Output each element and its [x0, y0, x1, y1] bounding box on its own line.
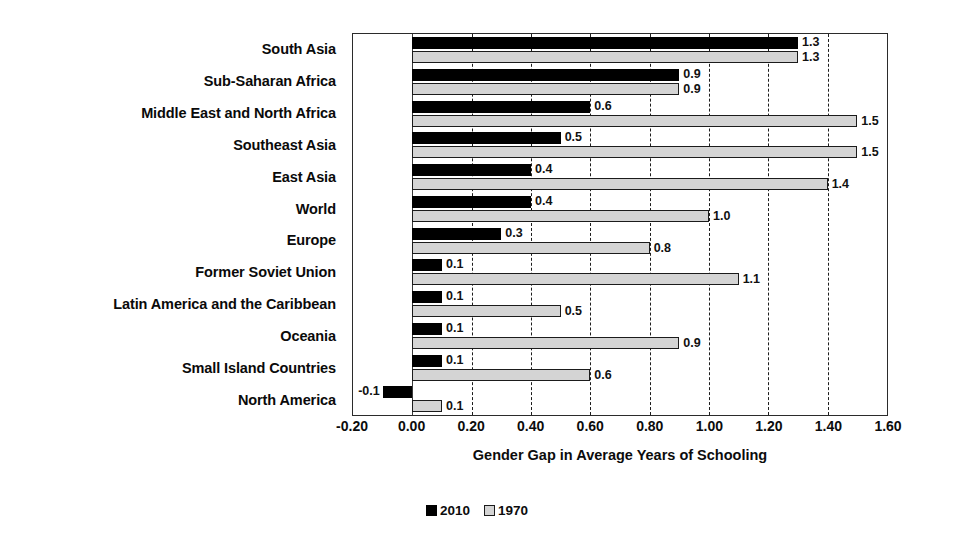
category-label: East Asia [0, 161, 342, 193]
category-label: Small Island Countries [0, 352, 342, 384]
bar-value-label: 0.1 [446, 290, 463, 302]
bar-row: 0.10.6 [353, 352, 887, 384]
light-square-icon [484, 505, 495, 516]
bar-value-label: 0.4 [535, 163, 552, 175]
category-axis-labels: South AsiaSub-Saharan AfricaMiddle East … [0, 33, 342, 416]
bar-2010 [412, 37, 798, 49]
bar-row: 0.10.5 [353, 288, 887, 320]
bar-value-label: 0.4 [535, 195, 552, 207]
plot-area: 1.31.30.90.90.61.50.51.50.41.40.41.00.30… [352, 33, 888, 416]
bar-value-label: 1.5 [861, 146, 878, 158]
legend-label: 1970 [498, 503, 528, 518]
dark-square-icon [426, 505, 437, 516]
x-tick-label: 0.60 [577, 418, 604, 434]
x-tick-label: 1.20 [755, 418, 782, 434]
bar-row: 0.30.8 [353, 225, 887, 257]
bar-2010 [412, 69, 679, 81]
legend-item[interactable]: 1970 [484, 503, 528, 518]
bar-value-label: 0.8 [654, 242, 671, 254]
gender-gap-bar-chart: South AsiaSub-Saharan AfricaMiddle East … [0, 0, 954, 533]
bar-value-label: 0.1 [446, 258, 463, 270]
bar-1970 [412, 242, 649, 254]
x-axis-ticks: -0.200.000.200.400.600.801.001.201.401.6… [352, 418, 888, 444]
bar-1970 [412, 369, 590, 381]
bar-value-label: 1.5 [861, 115, 878, 127]
bar-row: 0.41.4 [353, 161, 887, 193]
bar-row: 0.61.5 [353, 98, 887, 130]
legend-label: 2010 [440, 503, 470, 518]
bar-2010 [412, 355, 442, 367]
bar-value-label: 0.3 [505, 227, 522, 239]
bar-2010 [412, 196, 531, 208]
bar-1970 [412, 146, 857, 158]
bar-1970 [412, 210, 709, 222]
category-label: Southeast Asia [0, 129, 342, 161]
bar-2010 [412, 323, 442, 335]
bar-row: -0.10.1 [353, 383, 887, 415]
bar-value-label: 1.0 [713, 210, 730, 222]
category-label: Latin America and the Caribbean [0, 288, 342, 320]
x-tick-label: -0.20 [336, 418, 368, 434]
bar-1970 [412, 115, 857, 127]
bar-row: 0.10.9 [353, 320, 887, 352]
category-label: South Asia [0, 33, 342, 65]
bar-value-label: 1.3 [802, 51, 819, 63]
x-tick-label: 1.60 [874, 418, 901, 434]
bar-value-label: 0.9 [683, 68, 700, 80]
category-label: Middle East and North Africa [0, 97, 342, 129]
bar-value-label: 0.1 [446, 354, 463, 366]
bar-row: 1.31.3 [353, 34, 887, 66]
category-label: Europe [0, 225, 342, 257]
legend-item[interactable]: 2010 [426, 503, 470, 518]
bar-value-label: 0.1 [446, 322, 463, 334]
bar-1970 [412, 305, 560, 317]
bar-row: 0.90.9 [353, 66, 887, 98]
chart-legend: 20101970 [0, 503, 954, 518]
x-tick-label: 0.40 [517, 418, 544, 434]
bar-value-label: 0.6 [594, 100, 611, 112]
bar-value-label: -0.1 [358, 385, 380, 397]
bar-value-label: 0.5 [565, 305, 582, 317]
bar-value-label: 1.4 [832, 178, 849, 190]
bar-value-label: 1.1 [743, 273, 760, 285]
bar-value-label: 1.3 [802, 36, 819, 48]
category-label: Former Soviet Union [0, 256, 342, 288]
x-tick-label: 1.00 [696, 418, 723, 434]
x-tick-label: 0.80 [636, 418, 663, 434]
bar-rows: 1.31.30.90.90.61.50.51.50.41.40.41.00.30… [353, 34, 887, 415]
bar-1970 [412, 51, 798, 63]
bar-1970 [412, 83, 679, 95]
category-label: World [0, 193, 342, 225]
bar-2010 [412, 132, 560, 144]
bar-1970 [412, 273, 738, 285]
bar-2010 [412, 291, 442, 303]
bar-2010 [412, 259, 442, 271]
category-label: Sub-Saharan Africa [0, 65, 342, 97]
bar-1970 [412, 337, 679, 349]
x-tick-label: 0.20 [457, 418, 484, 434]
bar-row: 0.51.5 [353, 129, 887, 161]
bar-value-label: 0.5 [565, 131, 582, 143]
bar-2010 [383, 386, 413, 398]
bar-row: 0.41.0 [353, 193, 887, 225]
x-tick-label: 1.40 [815, 418, 842, 434]
x-tick-label: 0.00 [398, 418, 425, 434]
bar-value-label: 0.9 [683, 337, 700, 349]
bar-2010 [412, 101, 590, 113]
category-label: Oceania [0, 320, 342, 352]
bar-2010 [412, 164, 531, 176]
bar-value-label: 0.6 [594, 369, 611, 381]
bar-row: 0.11.1 [353, 256, 887, 288]
bar-1970 [412, 178, 827, 190]
bar-1970 [412, 400, 442, 412]
bar-2010 [412, 228, 501, 240]
category-label: North America [0, 384, 342, 416]
bar-value-label: 0.9 [683, 83, 700, 95]
x-axis-title: Gender Gap in Average Years of Schooling [352, 447, 888, 463]
bar-value-label: 0.1 [446, 400, 463, 412]
